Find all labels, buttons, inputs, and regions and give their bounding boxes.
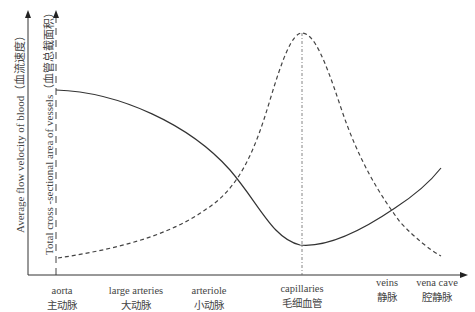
x-axis-arrow-icon — [460, 272, 468, 278]
velocity-curve — [56, 90, 441, 245]
y-axis-velocity-arrow-icon — [25, 10, 31, 18]
y-axis-area-label: Total cross -sectional area of vessels（血… — [40, 7, 56, 255]
x-label-capillaries: capillaries 毛细血管 — [280, 282, 323, 310]
x-label-arteriole: arteriole 小动脉 — [192, 284, 227, 312]
y-axis-velocity-label: Average flow velocity of blood（血流速度） — [11, 30, 27, 233]
x-label-aorta: aorta 主动脉 — [47, 284, 77, 312]
x-label-veins: veins 静脉 — [376, 276, 398, 304]
x-label-large-arteries: large arteries 大动脉 — [109, 284, 163, 312]
x-label-vena-cave: vena cave 腔静脉 — [416, 276, 458, 304]
area-curve — [58, 33, 441, 258]
